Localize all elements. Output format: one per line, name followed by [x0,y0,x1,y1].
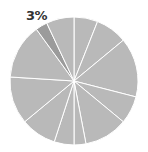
slice-percentage-label: 3% [26,9,47,22]
pie-chart [0,0,148,152]
